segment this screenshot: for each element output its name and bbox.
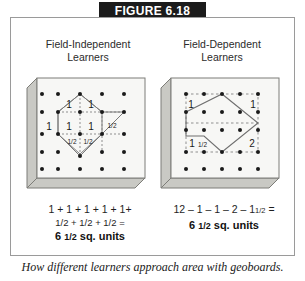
region-label: 1 (66, 99, 72, 110)
geoboard-field-dependent: 1 1 1 1/2 2 (159, 74, 285, 192)
result-fraction: 1/2 (64, 232, 77, 242)
region-label: 1 (250, 99, 256, 110)
result-number: 6 (189, 219, 195, 231)
figure-panel: Field-Independent Learners Field-Depende… (10, 17, 295, 256)
equation-main: 12 – 1 – 1 – 2 – 1 (173, 203, 255, 215)
region-label: 1/2 (83, 138, 92, 145)
region-label: 2 (249, 138, 255, 149)
heading-line-2: Learners (23, 51, 153, 64)
result-units: sq. units (214, 219, 259, 231)
figure-caption: How different learners approach area wit… (10, 260, 295, 275)
region-label: 1 (189, 138, 195, 149)
geoboard-block-3d (27, 78, 145, 188)
heading-line-1: Field-Dependent (157, 38, 287, 51)
result-units: sq. units (80, 230, 125, 242)
column-heading-field-independent: Field-Independent Learners (23, 38, 153, 63)
region-label: 1/2 (67, 138, 76, 145)
equation-field-independent: 1 + 1 + 1 + 1 + 1+ 1/2 + 1/2 + 1/2 = 6 1… (20, 203, 160, 244)
figure-title-text: FIGURE 6.18 (115, 4, 190, 18)
equation-line-1: 12 – 1 – 1 – 2 – 11/2 = (154, 203, 294, 217)
equation-line-2: 1/2 + 1/2 + 1/2 = (20, 216, 160, 229)
region-label: 1 (46, 121, 52, 132)
result-number: 6 (55, 230, 61, 242)
result-fraction: 1/2 (198, 221, 211, 231)
region-label: 1/2 (107, 122, 116, 129)
equation-result: 6 1/2 sq. units (20, 229, 160, 244)
heading-line-2: Learners (157, 51, 287, 64)
region-label: 1 (66, 121, 72, 132)
equation-field-dependent: 12 – 1 – 1 – 2 – 11/2 = 6 1/2 sq. units (154, 203, 294, 233)
region-label: 1 (188, 99, 194, 110)
geoboard-field-independent: 1 1 1 1 1 1/2 1/2 1/2 (25, 74, 151, 192)
equation-line-1: 1 + 1 + 1 + 1 + 1+ (20, 203, 160, 216)
region-label: 1 (88, 121, 94, 132)
heading-line-1: Field-Independent (23, 38, 153, 51)
equation-result: 6 1/2 sq. units (154, 218, 294, 233)
equation-tail: = (266, 203, 275, 215)
region-label: 1 (88, 99, 94, 110)
equation-fraction: 1/2 (255, 206, 265, 215)
region-label-fraction: 1/2 (198, 141, 207, 148)
column-heading-field-dependent: Field-Dependent Learners (157, 38, 287, 63)
